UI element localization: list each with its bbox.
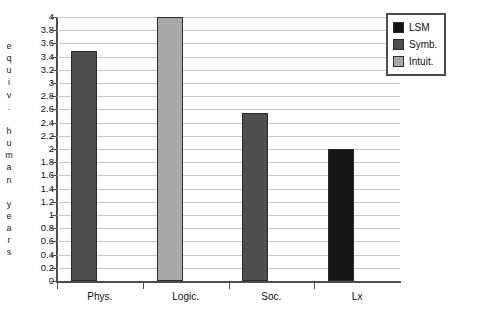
y-axis-tick-label: 1.2	[16, 197, 54, 207]
y-axis-tick-label: 3.8	[16, 25, 54, 35]
y-axis-tick-label: 0.6	[16, 236, 54, 246]
y-axis-title-letter: h	[2, 125, 16, 137]
y-axis-tick-label: 2.2	[16, 131, 54, 141]
y-axis-tick-label: 2.6	[16, 104, 54, 114]
y-axis-tick-label: 4	[16, 12, 54, 22]
x-axis-category-labels: Phys.Logic.Soc.Lx	[57, 290, 400, 306]
y-axis-title: equiv. human years	[2, 40, 16, 259]
y-axis-tick-label: 3.4	[16, 52, 54, 62]
y-axis-tick-label: 3	[16, 78, 54, 88]
y-axis-title-letter: u	[2, 64, 16, 76]
y-axis-title-letter	[2, 113, 16, 125]
x-axis-category-label: Soc.	[261, 290, 281, 304]
x-axis-tick-mark	[57, 283, 58, 289]
legend-swatch	[393, 39, 404, 50]
bar-group	[57, 17, 400, 281]
legend-swatch	[393, 56, 404, 67]
x-axis-category-label: Lx	[352, 290, 363, 304]
legend-label: Symb.	[409, 39, 437, 50]
y-axis-title-letter: q	[2, 52, 16, 64]
y-axis-tick-label: 1.6	[16, 170, 54, 180]
y-axis-title-letter: a	[2, 222, 16, 234]
y-axis-title-letter: i	[2, 76, 16, 88]
legend-label: LSM	[409, 22, 430, 33]
y-axis-tick-label: 1.4	[16, 184, 54, 194]
legend-item: Symb.	[393, 37, 437, 52]
legend-item: LSM	[393, 20, 437, 35]
x-axis-tick-marks	[57, 283, 400, 289]
legend: LSMSymb.Intuit.	[386, 13, 446, 76]
x-axis-tick-mark	[143, 283, 144, 289]
bar	[328, 149, 354, 281]
y-axis-tick-label: 0.4	[16, 250, 54, 260]
y-axis-title-letter: e	[2, 210, 16, 222]
y-axis-tick-label: 2.4	[16, 118, 54, 128]
bar	[157, 17, 183, 281]
bar	[242, 113, 268, 281]
y-axis-tick-label: 2	[16, 144, 54, 154]
y-axis-title-letter: n	[2, 174, 16, 186]
y-axis-title-letter: .	[2, 101, 16, 113]
y-axis-tick-label: 1	[16, 210, 54, 220]
y-axis-tick-label: 0	[16, 276, 54, 286]
legend-label: Intuit.	[409, 56, 433, 67]
y-axis-title-letter: m	[2, 149, 16, 161]
y-axis-tick-label: 1.8	[16, 157, 54, 167]
x-axis-tick-mark	[314, 283, 315, 289]
y-axis-title-letter: r	[2, 234, 16, 246]
legend-item: Intuit.	[393, 54, 437, 69]
y-axis-tick-label: 2.8	[16, 91, 54, 101]
y-axis-title-letter: s	[2, 246, 16, 258]
y-axis-tick-labels: 43.83.63.43.232.82.62.42.221.81.61.41.21…	[16, 17, 54, 281]
y-axis-title-letter: v	[2, 89, 16, 101]
y-axis-tick-label: 3.6	[16, 38, 54, 48]
y-axis-title-letter	[2, 186, 16, 198]
y-axis-title-letter: y	[2, 198, 16, 210]
y-axis-title-letter: u	[2, 137, 16, 149]
y-axis-tick-label: 0.8	[16, 223, 54, 233]
bar-chart: equiv. human years 43.83.63.43.232.82.62…	[0, 0, 477, 312]
y-axis-title-letter: a	[2, 161, 16, 173]
plot-area	[57, 17, 400, 281]
bar	[71, 51, 97, 281]
x-axis-category-label: Phys.	[87, 290, 112, 304]
y-axis-tick-label: 0.2	[16, 263, 54, 273]
y-axis-title-letter: e	[2, 40, 16, 52]
legend-swatch	[393, 22, 404, 33]
x-axis-category-label: Logic.	[172, 290, 199, 304]
x-axis-tick-mark	[229, 283, 230, 289]
y-axis-tick-label: 3.2	[16, 65, 54, 75]
